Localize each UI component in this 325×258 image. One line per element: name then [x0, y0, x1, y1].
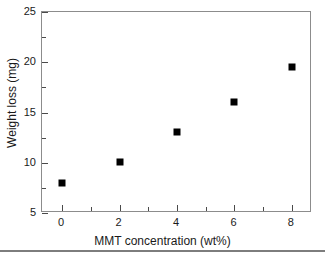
x-tick-label: 8: [288, 216, 294, 228]
x-tick-major: [234, 205, 235, 211]
x-tick-major: [120, 205, 121, 211]
y-tick-label: 15: [24, 106, 36, 118]
y-tick-minor: [42, 188, 46, 189]
x-tick-label: 2: [115, 216, 121, 228]
y-tick-label: 25: [24, 5, 36, 17]
x-tick-major: [292, 205, 293, 211]
y-tick-minor: [42, 87, 46, 88]
x-tick-minor: [263, 207, 264, 211]
x-tick-major: [177, 205, 178, 211]
x-tick-label: 4: [173, 216, 179, 228]
data-point: [116, 158, 123, 165]
y-tick-label: 10: [24, 156, 36, 168]
data-area: [42, 12, 310, 211]
bottom-separator-rule: [0, 250, 325, 252]
y-tick-major: [42, 213, 48, 214]
y-axis-title: Weight loss (mg): [5, 28, 19, 178]
x-axis-title: MMT concentration (wt%): [0, 234, 325, 248]
x-tick-minor: [206, 207, 207, 211]
x-tick-label: 6: [230, 216, 236, 228]
x-tick-minor: [148, 207, 149, 211]
y-tick-label: 5: [30, 206, 36, 218]
y-tick-label: 20: [24, 55, 36, 67]
y-tick-minor: [42, 138, 46, 139]
data-point: [59, 179, 66, 186]
data-point: [288, 64, 295, 71]
y-tick-major: [42, 163, 48, 164]
x-tick-label: 0: [58, 216, 64, 228]
x-tick-major: [62, 205, 63, 211]
data-point: [174, 128, 181, 135]
plot-frame: [41, 11, 311, 212]
y-tick-major: [42, 12, 48, 13]
y-tick-major: [42, 62, 48, 63]
figure: 510152025 02468 Weight loss (mg) MMT con…: [0, 0, 325, 258]
x-tick-minor: [91, 207, 92, 211]
y-tick-major: [42, 113, 48, 114]
data-point: [231, 99, 238, 106]
y-tick-minor: [42, 37, 46, 38]
